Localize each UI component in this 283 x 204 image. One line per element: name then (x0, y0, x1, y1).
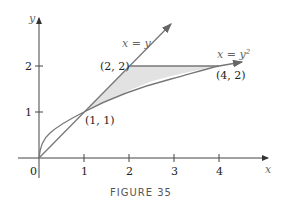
x-tick-4: 4 (216, 165, 223, 178)
x-tick-1: 1 (81, 165, 88, 178)
figure-canvas: x y 0 1 2 3 4 1 2 x = y x = y2 (1, 1) (2… (0, 0, 283, 204)
point-label-4-2: (4, 2) (216, 69, 246, 82)
y-tick-1: 1 (25, 106, 32, 119)
line-label: x = y (122, 37, 151, 50)
x-tick-3: 3 (171, 165, 178, 178)
line-x-equals-y (39, 24, 171, 158)
point-label-2-2: (2, 2) (100, 60, 130, 73)
x-tick-2: 2 (126, 165, 133, 178)
x-axis-label: x (265, 163, 272, 176)
point-label-1-1: (1, 1) (85, 114, 115, 127)
origin-label: 0 (30, 165, 37, 178)
y-tick-2: 2 (25, 60, 32, 73)
parabola-label: x = y2 (217, 48, 251, 61)
figure-caption: FIGURE 35 (110, 187, 172, 198)
y-axis-label: y (28, 12, 36, 25)
